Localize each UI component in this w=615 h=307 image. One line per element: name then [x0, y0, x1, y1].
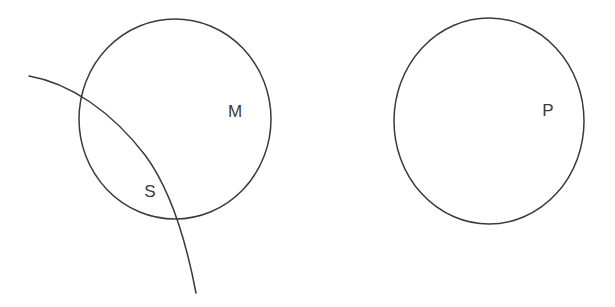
label-s: S	[144, 182, 155, 201]
circle-p	[394, 18, 584, 224]
label-p: P	[542, 101, 553, 120]
venn-diagram-svg: M S P	[0, 0, 615, 307]
circle-m	[79, 19, 271, 219]
diagram-canvas: M S P	[0, 0, 615, 307]
arc-s	[29, 76, 196, 293]
label-m: M	[228, 102, 242, 121]
